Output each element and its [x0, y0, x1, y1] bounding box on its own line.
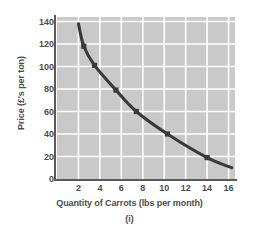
x-tick-label: 8 — [133, 183, 153, 194]
y-tick-label: 60 — [26, 107, 54, 116]
data-point-marker — [92, 63, 97, 68]
data-point-marker — [113, 88, 118, 93]
x-axis-line — [54, 179, 237, 181]
plot-svg — [57, 17, 235, 179]
y-tick-label: 120 — [26, 40, 54, 49]
y-tick-label: 40 — [26, 130, 54, 139]
y-axis-line — [54, 15, 56, 181]
x-tick-label: 14 — [197, 183, 217, 194]
data-point-marker — [81, 44, 86, 49]
y-tick-label: 100 — [26, 62, 54, 71]
x-tick-label: 16 — [219, 183, 239, 194]
figure-caption: (i) — [0, 214, 259, 224]
x-axis-tick-labels: 246810121416 — [0, 183, 259, 197]
x-tick-label: 4 — [90, 183, 110, 194]
x-tick-label: 12 — [176, 183, 196, 194]
demand-curve — [78, 24, 231, 168]
data-point-marker — [205, 155, 210, 160]
x-tick-label: 10 — [154, 183, 174, 194]
y-tick-label: 20 — [26, 152, 54, 161]
data-series-group — [78, 24, 231, 168]
data-point-marker — [165, 131, 170, 136]
y-tick-label: 80 — [26, 85, 54, 94]
y-tick-label: 140 — [26, 17, 54, 26]
data-point-marker — [134, 109, 139, 114]
x-tick-label: 2 — [68, 183, 88, 194]
x-axis-title: Quantity of Carrots (lbs per month) — [0, 198, 259, 208]
chart-figure: Price (£'s per ton) 020406080100120140 2… — [0, 0, 259, 234]
plot-area — [57, 17, 235, 179]
x-tick-label: 6 — [111, 183, 131, 194]
